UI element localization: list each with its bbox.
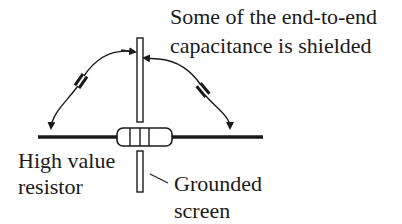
high-value-resistor <box>117 128 172 146</box>
capacitor-icon <box>74 73 89 89</box>
resistor-label-line-2: resistor <box>18 174 83 199</box>
screen-label-line-1: Grounded <box>174 171 262 196</box>
capacitor-icon <box>195 82 210 98</box>
screen-upper <box>137 38 143 122</box>
screen-lower <box>137 151 143 192</box>
left-stray-capacitance <box>51 50 135 128</box>
title-line-2: capacitance is shielded <box>170 33 372 58</box>
grounded-screen <box>137 38 143 192</box>
right-stray-capacitance <box>144 58 230 128</box>
title-line-1: Some of the end-to-end <box>170 4 377 29</box>
shielding-diagram: Some of the end-to-end capacitance is sh… <box>0 0 402 224</box>
resistor-label-line-1: High value <box>18 148 115 173</box>
screen-label-line-2: screen <box>174 198 230 223</box>
screen-label-leader <box>150 174 168 183</box>
